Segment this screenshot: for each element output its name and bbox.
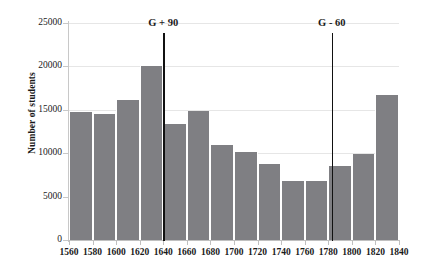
bar — [305, 181, 329, 240]
bar — [163, 124, 187, 240]
annotation-line — [332, 33, 334, 241]
x-axis-tick-labels: 1560158016001620164016601680170017201740… — [0, 247, 423, 267]
x-axis-tick-label: 1720 — [248, 247, 267, 257]
annotation-label: G - 60 — [318, 17, 345, 28]
gridline — [69, 66, 399, 67]
x-axis-tick-label: 1760 — [295, 247, 314, 257]
bar — [375, 95, 399, 240]
y-axis-tick-mark — [63, 240, 68, 241]
x-axis-tick-mark — [187, 241, 188, 245]
bar-chart: Number of students 050001000015000200002… — [0, 0, 423, 271]
x-axis-tick-mark — [258, 241, 259, 245]
bar — [258, 164, 282, 240]
annotation-line — [163, 33, 165, 241]
x-axis-tick-label: 1580 — [83, 247, 102, 257]
y-axis-tick-mark — [63, 23, 68, 24]
y-axis-tick-label: 0 — [18, 235, 62, 245]
y-axis-tick-labels: 0500010000150002000025000 — [14, 0, 62, 271]
x-axis-tick-label: 1800 — [342, 247, 361, 257]
x-axis-tick-mark — [399, 241, 400, 245]
x-axis-tick-label: 1680 — [201, 247, 220, 257]
y-axis-tick-mark — [63, 66, 68, 67]
bar — [352, 154, 376, 240]
x-axis-tick-mark — [210, 241, 211, 245]
x-axis-tick-mark — [69, 241, 70, 245]
y-axis-tick-label: 15000 — [18, 105, 62, 115]
x-axis-tick-mark — [352, 241, 353, 245]
x-axis-tick-label: 1660 — [177, 247, 196, 257]
x-axis-tick-mark — [140, 241, 141, 245]
x-axis-tick-mark — [305, 241, 306, 245]
y-axis-tick-label: 10000 — [18, 148, 62, 158]
x-axis-tick-mark — [93, 241, 94, 245]
y-axis-tick-mark — [63, 197, 68, 198]
y-axis-tick-label: 20000 — [18, 61, 62, 71]
x-axis-tick-label: 1560 — [60, 247, 79, 257]
x-axis-tick-label: 1640 — [154, 247, 173, 257]
x-axis-tick-label: 1620 — [130, 247, 149, 257]
x-axis-tick-mark — [234, 241, 235, 245]
bar — [210, 145, 234, 240]
bar — [116, 100, 140, 240]
x-axis-tick-mark — [163, 241, 164, 245]
y-axis-tick-mark — [63, 153, 68, 154]
bar — [93, 114, 117, 240]
x-axis-tick-label: 1700 — [225, 247, 244, 257]
bar — [187, 111, 211, 240]
y-axis-tick-label: 5000 — [18, 192, 62, 202]
annotation-label: G + 90 — [148, 17, 178, 28]
x-axis-tick-mark — [375, 241, 376, 245]
bar — [281, 181, 305, 240]
bar — [234, 152, 258, 240]
y-axis-tick-label: 25000 — [18, 18, 62, 28]
bar — [140, 66, 164, 240]
x-axis-tick-label: 1820 — [366, 247, 385, 257]
y-axis-tick-mark — [63, 110, 68, 111]
x-axis-tick-mark — [328, 241, 329, 245]
gridline — [69, 23, 399, 24]
plot-area — [69, 23, 399, 240]
x-axis-tick-mark — [116, 241, 117, 245]
x-axis-tick-mark — [281, 241, 282, 245]
x-axis-tick-label: 1840 — [390, 247, 409, 257]
x-axis-tick-label: 1780 — [319, 247, 338, 257]
bar — [69, 112, 93, 240]
x-axis-tick-label: 1740 — [272, 247, 291, 257]
x-axis-tick-label: 1600 — [107, 247, 126, 257]
